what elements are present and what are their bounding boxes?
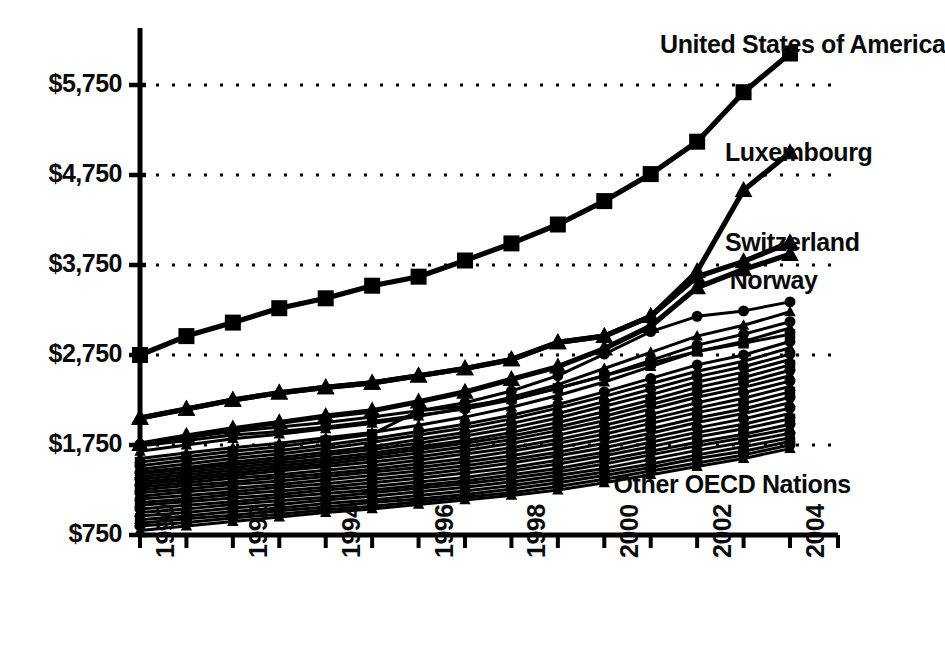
data-point-marker	[784, 306, 795, 316]
x-axis-tick-label: 1994	[337, 504, 366, 558]
data-point-marker	[645, 326, 656, 337]
data-point-marker	[178, 328, 194, 344]
x-axis-tick-label: 1998	[522, 504, 551, 558]
series-line	[140, 54, 790, 356]
y-axis-tick-label: $5,750	[49, 69, 122, 98]
data-point-marker	[785, 296, 796, 307]
data-point-marker	[274, 426, 285, 437]
data-point-marker	[646, 358, 656, 368]
y-axis-tick-label: $3,750	[49, 249, 122, 278]
annotation-label: United States of America	[660, 30, 945, 59]
data-point-marker	[503, 235, 519, 251]
y-axis-tick-label: $1,750	[49, 429, 122, 458]
data-point-marker	[599, 349, 610, 360]
y-axis-tick-label: $4,750	[49, 159, 122, 188]
x-axis-tick-label: 2002	[708, 504, 737, 558]
y-axis-tick-label: $750	[68, 519, 122, 548]
data-point-marker	[411, 269, 427, 285]
data-point-marker	[318, 290, 334, 306]
data-point-marker	[738, 338, 748, 348]
data-point-marker	[692, 346, 702, 356]
annotation-label: Other OECD Nations	[614, 470, 851, 499]
data-point-marker	[692, 311, 703, 322]
x-axis-tick-label: 1992	[244, 504, 273, 558]
data-point-marker	[550, 217, 566, 233]
data-point-marker	[596, 193, 612, 209]
annotation-label: Norway	[730, 266, 818, 295]
data-point-marker	[367, 416, 378, 427]
data-point-marker	[413, 406, 423, 416]
data-point-marker	[227, 430, 238, 441]
x-axis-tick-label: 2000	[615, 504, 644, 558]
data-point-marker	[271, 300, 287, 316]
data-point-marker	[689, 134, 705, 150]
data-point-marker	[457, 253, 473, 269]
data-point-marker	[506, 394, 516, 404]
data-point-marker	[225, 315, 241, 331]
data-point-marker	[320, 422, 331, 433]
data-point-marker	[364, 278, 380, 294]
data-series-group	[131, 46, 799, 535]
data-point-marker	[738, 305, 749, 316]
x-axis-tick-label: 2004	[801, 504, 830, 558]
data-point-marker	[599, 371, 609, 381]
annotation-label: Switzerland	[725, 228, 860, 257]
data-point-marker	[460, 401, 470, 411]
x-axis-tick-label: 1990	[151, 504, 180, 558]
data-point-marker	[553, 383, 563, 393]
data-point-marker	[643, 166, 659, 182]
data-point-marker	[736, 84, 752, 100]
data-point-marker	[181, 435, 192, 446]
x-axis-tick-label: 1996	[430, 504, 459, 558]
annotation-label: Luxembourg	[725, 138, 872, 167]
y-axis-tick-label: $2,750	[49, 339, 122, 368]
